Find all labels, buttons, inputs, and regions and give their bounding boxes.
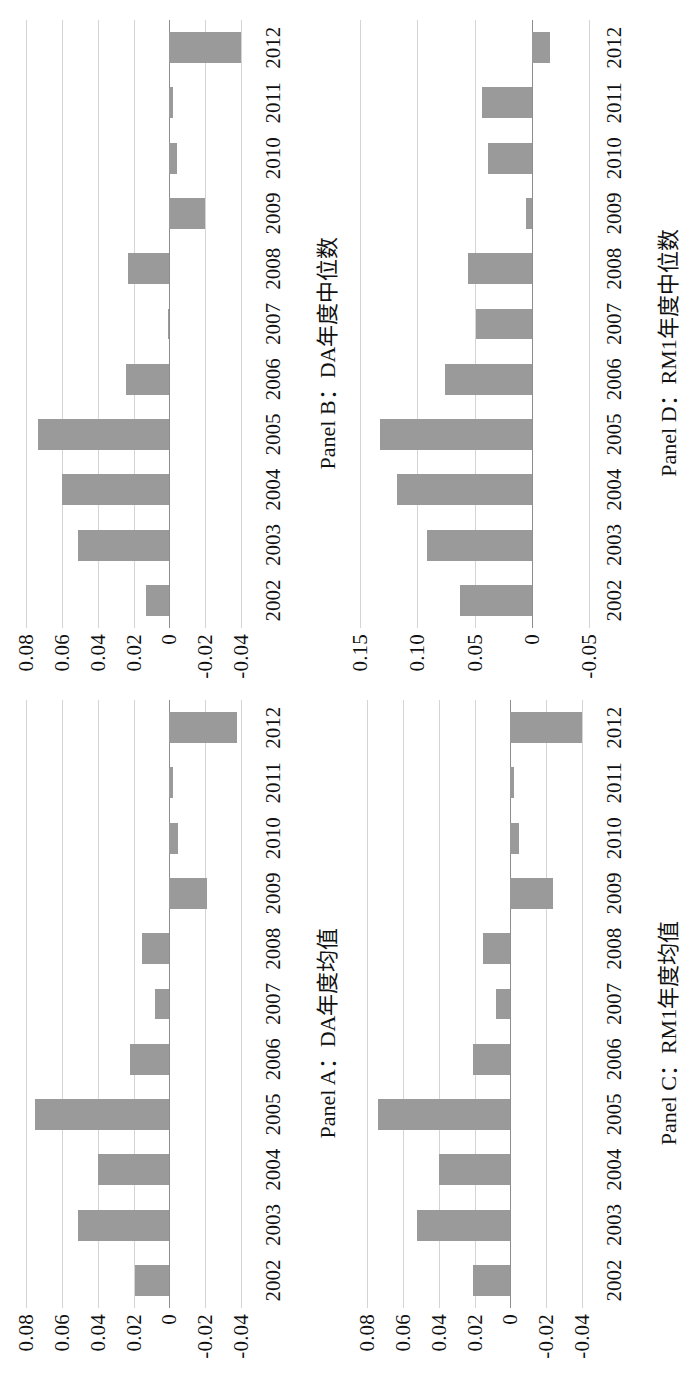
x-axis-tick-label: 2005 bbox=[602, 414, 627, 456]
x-axis-tick-label: 2002 bbox=[602, 579, 627, 621]
x-axis-tick-label: 2002 bbox=[261, 579, 286, 621]
bar bbox=[169, 823, 178, 854]
bar-slot bbox=[8, 1099, 259, 1130]
x-axis-tick-label: 2009 bbox=[261, 192, 286, 234]
bar bbox=[496, 989, 510, 1020]
panel-d-plot-wrap: 0.150.100.050-0.05 bbox=[349, 20, 600, 686]
x-axis-tick-label: 2007 bbox=[261, 983, 286, 1025]
bar bbox=[169, 143, 176, 174]
bar bbox=[488, 143, 531, 174]
y-axis-tick-label: 0.10 bbox=[405, 634, 430, 672]
bar-slot bbox=[8, 419, 259, 450]
x-axis-tick-label: 2009 bbox=[261, 872, 286, 914]
y-axis-tick-label: -0.04 bbox=[229, 634, 254, 679]
bar-slot bbox=[8, 585, 259, 616]
bar bbox=[460, 585, 532, 616]
bar-slot bbox=[8, 474, 259, 505]
x-axis-tick-label: 2011 bbox=[261, 762, 286, 803]
bar bbox=[146, 585, 169, 616]
panel-b: 0.080.060.040.020-0.02-0.04 200220032004… bbox=[4, 10, 345, 690]
x-axis-tick-label: 2009 bbox=[602, 872, 627, 914]
y-axis-tick-label: 0.05 bbox=[462, 634, 487, 672]
bar bbox=[482, 87, 531, 118]
x-axis-tick-label: 2011 bbox=[261, 82, 286, 123]
bar-slot bbox=[349, 1265, 600, 1296]
bar-slot bbox=[8, 712, 259, 743]
panel-c: 0.080.060.040.020-0.02-0.04 200220032004… bbox=[345, 690, 686, 1370]
panel-b-plot-wrap: 0.080.060.040.020-0.02-0.04 bbox=[8, 20, 259, 686]
x-axis-tick-label: 2003 bbox=[602, 1204, 627, 1246]
panel-d-plot-area bbox=[349, 20, 600, 628]
y-axis-tick-label: -0.02 bbox=[534, 1314, 559, 1359]
panel-c-y-axis: 0.080.060.040.020-0.02-0.04 bbox=[349, 1308, 600, 1366]
bar-slot bbox=[8, 933, 259, 964]
bar-slot bbox=[349, 253, 600, 284]
y-axis-tick-label: 0.08 bbox=[13, 634, 38, 672]
bar bbox=[473, 1265, 511, 1296]
bar bbox=[78, 1210, 169, 1241]
bar-slot bbox=[349, 767, 600, 798]
bar-slot bbox=[8, 1154, 259, 1185]
x-axis-tick-label: 2010 bbox=[261, 137, 286, 179]
panel-a-x-axis: 2002200320042005200620072008200920102011… bbox=[259, 700, 293, 1308]
bar-slot bbox=[8, 364, 259, 395]
x-axis-tick-label: 2008 bbox=[602, 248, 627, 290]
panel-a-bars bbox=[8, 700, 259, 1308]
bar bbox=[169, 712, 237, 743]
panel-a-caption: Panel A：DA年度均值 bbox=[309, 700, 341, 1366]
bar-slot bbox=[349, 87, 600, 118]
bar bbox=[510, 878, 553, 909]
bar bbox=[510, 823, 519, 854]
panel-c-caption: Panel C：RM1年度均值 bbox=[650, 700, 682, 1366]
bar bbox=[169, 767, 173, 798]
x-axis-tick-label: 2005 bbox=[261, 414, 286, 456]
y-axis-tick-label: 0.06 bbox=[390, 1314, 415, 1352]
bar-slot bbox=[349, 364, 600, 395]
panel-c-plot-wrap: 0.080.060.040.020-0.02-0.04 bbox=[349, 700, 600, 1366]
bar bbox=[445, 364, 532, 395]
bar-slot bbox=[349, 1044, 600, 1075]
bar-slot bbox=[349, 1099, 600, 1130]
panel-d-x-axis: 2002200320042005200620072008200920102011… bbox=[600, 20, 634, 628]
bar bbox=[155, 989, 169, 1020]
y-axis-tick-label: 0.04 bbox=[85, 634, 110, 672]
bar bbox=[126, 364, 169, 395]
bar-slot bbox=[349, 989, 600, 1020]
bar bbox=[417, 1210, 510, 1241]
x-axis-tick-label: 2009 bbox=[602, 192, 627, 234]
panel-c-x-axis: 2002200320042005200620072008200920102011… bbox=[600, 700, 634, 1308]
bar-slot bbox=[349, 143, 600, 174]
y-axis-tick-label: -0.05 bbox=[576, 634, 601, 679]
panel-b-caption: Panel B：DA年度中位数 bbox=[309, 20, 341, 686]
bar-slot bbox=[349, 1210, 600, 1241]
bar bbox=[35, 1099, 169, 1130]
panel-b-x-axis: 2002200320042005200620072008200920102011… bbox=[259, 20, 293, 628]
y-axis-tick-label: 0.04 bbox=[85, 1314, 110, 1352]
bar-slot bbox=[8, 767, 259, 798]
y-axis-tick-label: -0.04 bbox=[229, 1314, 254, 1359]
x-axis-tick-label: 2008 bbox=[261, 248, 286, 290]
x-axis-tick-label: 2008 bbox=[261, 928, 286, 970]
bar-slot bbox=[8, 1044, 259, 1075]
x-axis-tick-label: 2005 bbox=[261, 1094, 286, 1136]
x-axis-tick-label: 2006 bbox=[261, 1038, 286, 1080]
y-axis-tick-label: 0.06 bbox=[49, 1314, 74, 1352]
bar-slot bbox=[8, 87, 259, 118]
y-axis-tick-label: 0.04 bbox=[426, 1314, 451, 1352]
bar-slot bbox=[8, 309, 259, 340]
x-axis-tick-label: 2008 bbox=[602, 928, 627, 970]
panel-d-y-axis: 0.150.100.050-0.05 bbox=[349, 628, 600, 686]
panel-b-plot-area bbox=[8, 20, 259, 628]
y-axis-tick-label: 0 bbox=[157, 1314, 182, 1325]
bar-slot bbox=[8, 530, 259, 561]
four-panel-figure: 0.080.060.040.020-0.02-0.04 200220032004… bbox=[0, 0, 692, 1376]
y-axis-tick-label: 0.08 bbox=[13, 1314, 38, 1352]
y-axis-tick-label: -0.02 bbox=[193, 1314, 218, 1359]
panel-a-plot-area bbox=[8, 700, 259, 1308]
y-axis-tick-label: 0.02 bbox=[462, 1314, 487, 1352]
bar-slot bbox=[8, 989, 259, 1020]
bar bbox=[142, 933, 169, 964]
bar bbox=[130, 1044, 169, 1075]
x-axis-tick-label: 2012 bbox=[602, 27, 627, 69]
y-axis-tick-label: 0 bbox=[519, 634, 544, 645]
